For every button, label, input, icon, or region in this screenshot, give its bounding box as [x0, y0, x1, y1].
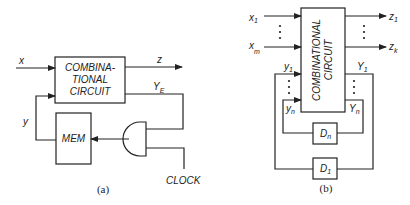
- ellipsis-dot: [363, 37, 365, 39]
- ellipsis-dot: [288, 80, 290, 82]
- ellipsis-dot: [279, 31, 281, 33]
- ellipsis-dot: [353, 80, 355, 82]
- clock-wire: [146, 148, 184, 169]
- combinational-label-line1: COMBINA-: [65, 62, 116, 73]
- state-yn-label: yn: [285, 103, 295, 115]
- combinational-label-b-line2: CIRCUIT: [323, 39, 334, 80]
- ellipsis-dot: [279, 25, 281, 27]
- ellipsis-dot: [363, 31, 365, 33]
- output-zk-label: zk: [388, 41, 398, 54]
- caption-a: (a): [97, 183, 110, 196]
- memory-label: MEM: [62, 133, 86, 144]
- state-y-wire: [36, 96, 56, 140]
- ellipsis-dot: [279, 37, 281, 39]
- excitation-label: YE: [153, 81, 165, 94]
- output-z1-label: z1: [388, 11, 398, 23]
- panel-a: COMBINA- TIONAL CIRCUIT x z YE MEM y CLO…: [16, 54, 202, 196]
- clock-label: CLOCK: [166, 175, 202, 186]
- ellipsis-dot: [288, 86, 290, 88]
- ellipsis-dot: [288, 92, 290, 94]
- caption-b: (b): [320, 182, 333, 195]
- panel-b: COMBINATIONAL CIRCUIT x1 xm z1 zk y1 Y1: [248, 8, 398, 195]
- combinational-label-line3: CIRCUIT: [70, 86, 111, 97]
- excitation-Yn-label: Yn: [349, 103, 360, 115]
- ellipsis-dot: [363, 25, 365, 27]
- input-xm-label: xm: [248, 40, 260, 55]
- input-x1-label: x1: [248, 12, 258, 24]
- state-y1-label: y1: [283, 61, 293, 73]
- input-x-label: x: [18, 55, 25, 66]
- combinational-label-line2: TIONAL: [72, 74, 108, 85]
- ellipsis-dot: [353, 86, 355, 88]
- excitation-Y1-label: Y1: [357, 61, 368, 73]
- state-y-label: y: [22, 116, 29, 127]
- combinational-label-b-line1: COMBINATIONAL: [311, 19, 322, 101]
- ellipsis-dot: [353, 92, 355, 94]
- sequential-circuit-figure: COMBINA- TIONAL CIRCUIT x z YE MEM y CLO…: [0, 0, 410, 205]
- output-z-label: z: [156, 54, 162, 65]
